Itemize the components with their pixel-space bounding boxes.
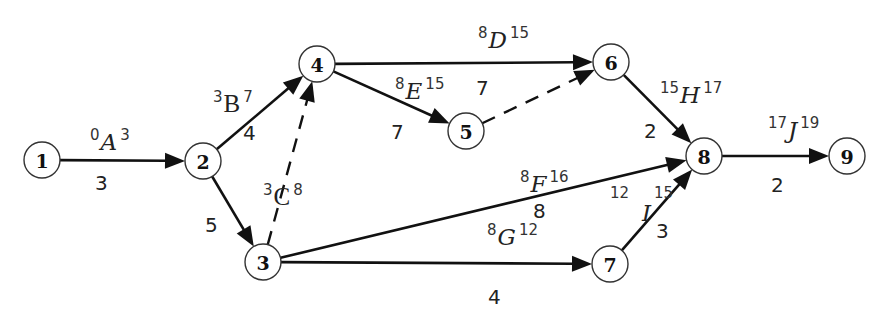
activity-name: 15H17 <box>660 79 722 108</box>
event-node-8: 8 <box>686 138 722 174</box>
activity-duration: 3 <box>656 219 669 243</box>
activity-name: 3C8 <box>263 181 303 210</box>
network-diagram: 0A333B743C858D1578E1578F1688G12415H17212… <box>0 0 887 336</box>
activity-name: 8F16 <box>520 168 569 197</box>
earliest-finish: 8 <box>293 181 303 199</box>
arrowhead-icon <box>573 54 593 70</box>
event-node-label: 5 <box>459 121 472 143</box>
dummy-arrow-3-4 <box>268 99 308 245</box>
event-node-label: 3 <box>256 252 269 274</box>
activity-duration: 2 <box>644 119 657 143</box>
activity-name: 8G12 <box>487 221 538 250</box>
activity-label-f: 8F168 <box>520 168 569 223</box>
event-node-9: 9 <box>829 138 865 174</box>
event-node-7: 7 <box>592 246 628 282</box>
event-node-2: 2 <box>185 143 221 179</box>
activity-name: 3B7 <box>213 88 253 117</box>
earliest-finish: 15 <box>654 184 673 202</box>
dummy-arrow-5-6 <box>482 77 578 123</box>
event-node-label: 2 <box>196 151 209 173</box>
arrowhead-icon <box>665 157 686 173</box>
event-node-label: 9 <box>840 146 853 168</box>
earliest-start: 8 <box>520 168 530 186</box>
activity-duration: 7 <box>476 76 489 100</box>
earliest-finish: 3 <box>120 126 130 144</box>
activity-duration: 7 <box>391 120 404 144</box>
earliest-start: 3 <box>263 181 273 199</box>
earliest-finish: 16 <box>550 168 569 186</box>
activity-name: 8D15 <box>478 24 529 53</box>
earliest-start: 15 <box>660 79 679 97</box>
earliest-finish: 15 <box>510 24 529 42</box>
earliest-finish: 17 <box>703 79 722 97</box>
activity-arrow-d <box>335 62 575 64</box>
activity-duration: 4 <box>488 285 501 309</box>
arrowhead-icon <box>299 81 314 102</box>
activity-duration: 2 <box>771 173 784 197</box>
arrowhead-icon <box>572 256 592 272</box>
event-node-1: 1 <box>24 142 60 178</box>
activity-label-g: 8G124 <box>487 221 538 309</box>
event-node-6: 6 <box>593 44 629 80</box>
earliest-start: 8 <box>487 221 497 239</box>
activity-duration: 4 <box>243 121 256 145</box>
activity-name: 8E15 <box>395 75 444 104</box>
earliest-finish: 7 <box>243 88 253 106</box>
nodes-layer: 123456789 <box>24 44 865 282</box>
activity-duration: 8 <box>533 199 546 223</box>
activity-duration: 5 <box>205 213 218 237</box>
earliest-start: 8 <box>395 75 405 93</box>
activity-duration: 3 <box>95 171 108 195</box>
arrowhead-icon <box>165 153 185 169</box>
earliest-start: 0 <box>90 126 100 144</box>
activity-name: 0A3 <box>90 126 130 155</box>
activity-label-b: 3B74 <box>213 88 256 145</box>
activity-arrow-f <box>281 164 669 257</box>
event-node-label: 4 <box>310 54 323 76</box>
event-node-label: 7 <box>603 254 616 276</box>
event-node-label: 8 <box>697 146 710 168</box>
earliest-start: 12 <box>610 184 629 202</box>
arrowhead-icon <box>237 225 254 246</box>
activity-arrow-g <box>281 262 574 264</box>
earliest-start: 17 <box>768 114 787 132</box>
activity-arrow-a <box>60 160 167 161</box>
event-node-3: 3 <box>245 244 281 280</box>
event-node-label: 1 <box>35 150 48 172</box>
arrowhead-icon <box>573 70 594 86</box>
arrowhead-icon <box>809 148 829 164</box>
earliest-finish: 12 <box>519 221 538 239</box>
event-node-4: 4 <box>299 46 335 82</box>
event-node-label: 6 <box>604 52 617 74</box>
earliest-finish: 19 <box>800 114 819 132</box>
earliest-finish: 15 <box>425 75 444 93</box>
earliest-start: 3 <box>213 88 223 106</box>
event-node-5: 5 <box>448 113 484 149</box>
activity-name: I <box>641 200 652 226</box>
arrowhead-icon <box>428 108 450 123</box>
activity-name: 17J19 <box>768 114 819 143</box>
activity-label-i: 12I153 <box>610 184 673 243</box>
earliest-start: 8 <box>478 24 488 42</box>
